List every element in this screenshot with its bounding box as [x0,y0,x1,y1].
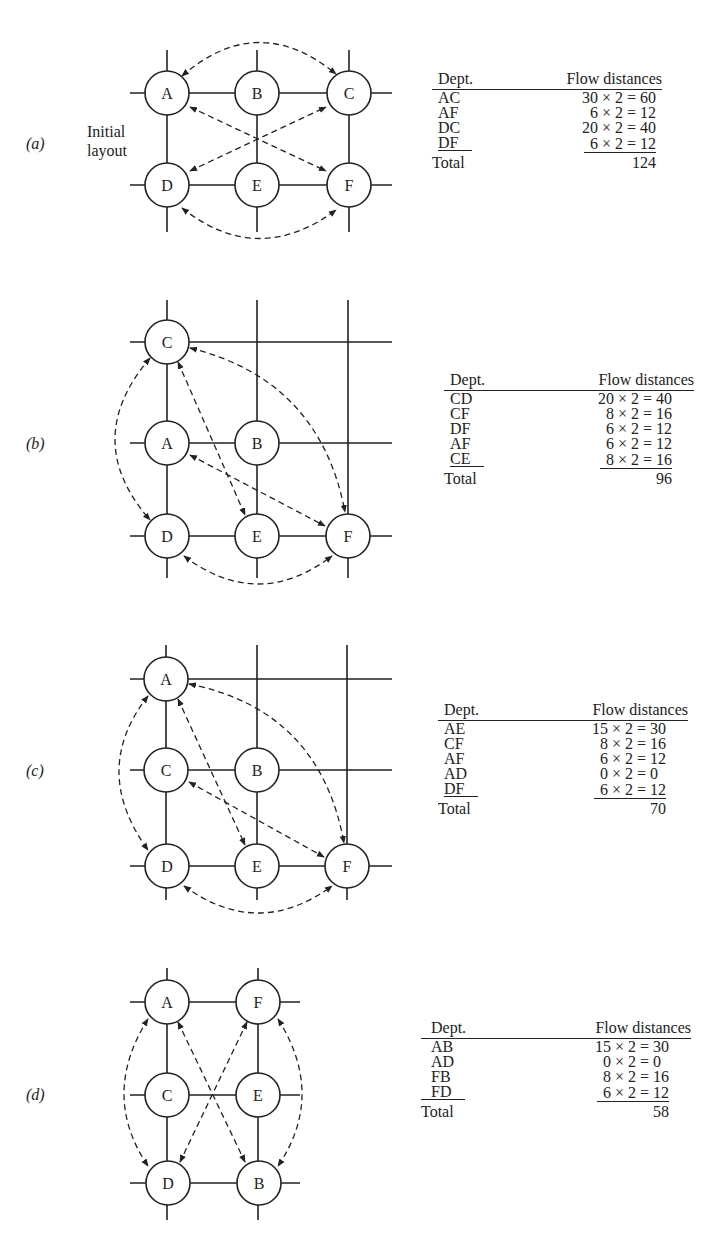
dept-cell: DC [432,120,486,135]
dept-node: F [236,980,280,1024]
dept-cell: AF [444,436,502,451]
flow-cell: 8 × 2 = 16 [600,451,672,469]
table-row: CD20 × 2 = 40 [444,391,694,407]
dept-cell: AF [438,751,496,766]
table-row: CF8 × 2 = 16 [438,736,688,751]
svg-text:F: F [343,858,352,875]
dept-node: F [326,514,370,558]
dept-node: D [145,163,189,207]
table-row: CF8 × 2 = 16 [444,406,694,421]
total-label: Total [444,470,502,486]
flow-cell: 6 × 2 = 12 [502,421,694,436]
svg-text:A: A [161,435,173,452]
dept-node: C [144,748,188,792]
panel-label-b: (b) [26,435,45,453]
dept-cell: AD [421,1054,488,1069]
col-header-flow: Flow distances [488,1020,691,1039]
total-row: Total124 [432,154,662,170]
total-label: Total [421,1103,488,1119]
dept-cell: CD [444,391,502,407]
dept-node: D [146,1161,190,1205]
total-value: 70 [496,800,688,816]
svg-text:E: E [252,528,262,545]
svg-text:E: E [253,1087,263,1104]
col-header-dept: Dept. [438,702,496,721]
svg-text:C: C [161,762,172,779]
dept-cell: DF [444,781,478,797]
flow-table-b: Dept. Flow distances CD20 × 2 = 40 CF8 ×… [444,372,694,486]
total-value: 96 [502,470,694,486]
flow-table-d: Dept. Flow distances AB15 × 2 = 30 AD0 ×… [421,1020,691,1119]
panel-label-text: (b) [26,435,45,452]
col-header-flow: Flow distances [502,372,694,391]
dept-node: C [145,320,189,364]
panel-label-text: (d) [26,1086,45,1103]
table-row: AF6 × 2 = 12 [438,751,688,766]
dept-node: C [145,1073,189,1117]
flow-cell: 30 × 2 = 60 [486,90,662,106]
dept-node: E [236,1073,280,1117]
dept-cell-wrap: CE [444,451,502,470]
table-row: FB8 × 2 = 16 [421,1069,691,1084]
dept-node: A [144,657,188,701]
dept-cell: CF [438,736,496,751]
flow-cell: 20 × 2 = 40 [486,120,662,135]
svg-text:A: A [161,85,173,102]
table-row: CE8 × 2 = 16 [444,451,694,470]
flow-cell: 6 × 2 = 12 [496,751,688,766]
table-row: DF6 × 2 = 12 [432,135,662,154]
svg-text:D: D [161,528,173,545]
flow-cell: 15 × 2 = 30 [496,721,688,737]
dept-node: A [145,71,189,115]
flow-table-a: Dept. Flow distances AC30 × 2 = 60 AF6 ×… [432,71,662,170]
dept-cell: CE [450,451,484,467]
panel-label-d: (d) [26,1086,45,1104]
dept-node: B [235,421,279,465]
dept-cell: AC [432,90,486,106]
table-row: FD6 × 2 = 12 [421,1084,691,1103]
svg-text:B: B [254,1175,265,1192]
flow-cell: 6 × 2 = 12 [502,436,694,451]
svg-text:C: C [162,1087,173,1104]
flow-cell: 8 × 2 = 16 [496,736,688,751]
col-header-flow: Flow distances [486,71,662,90]
flow-cell: 8 × 2 = 16 [488,1069,691,1084]
svg-text:C: C [344,85,355,102]
flow-cell-wrap: 6 × 2 = 12 [488,1084,691,1103]
table-row: AF6 × 2 = 12 [432,105,662,120]
flow-cell: 0 × 2 = 0 [496,766,688,781]
svg-text:E: E [252,177,262,194]
table-row: AE15 × 2 = 30 [438,721,688,737]
dept-cell: AD [438,766,496,781]
dept-cell: AE [438,721,496,737]
svg-text:D: D [161,858,173,875]
svg-text:A: A [161,994,173,1011]
svg-text:F: F [344,528,353,545]
flow-cell: 20 × 2 = 40 [502,391,694,407]
dept-cell: FB [421,1069,488,1084]
flow-cell: 0 × 2 = 0 [488,1054,691,1069]
svg-text:F: F [254,994,263,1011]
flow-cell-wrap: 6 × 2 = 12 [486,135,662,154]
table-row: DF6 × 2 = 12 [444,421,694,436]
flow-cell-wrap: 8 × 2 = 16 [502,451,694,470]
table-row: AD0 × 2 = 0 [438,766,688,781]
svg-text:F: F [345,177,354,194]
dept-cell: FD [421,1084,465,1100]
flow-cell: 6 × 2 = 12 [486,105,662,120]
flow-cell: 6 × 2 = 12 [594,781,666,799]
table-row: AF6 × 2 = 12 [444,436,694,451]
dept-cell-wrap: FD [421,1084,488,1103]
total-label: Total [432,154,486,170]
svg-text:C: C [162,334,173,351]
dept-cell: AB [421,1039,488,1055]
dept-node: A [145,980,189,1024]
dept-cell: CF [444,406,502,421]
dept-node: D [145,514,189,558]
table-row: AC30 × 2 = 60 [432,90,662,106]
table-row: AD0 × 2 = 0 [421,1054,691,1069]
svg-text:B: B [252,762,263,779]
total-row: Total58 [421,1103,691,1119]
dept-node: F [325,844,369,888]
dept-node: C [327,71,371,115]
